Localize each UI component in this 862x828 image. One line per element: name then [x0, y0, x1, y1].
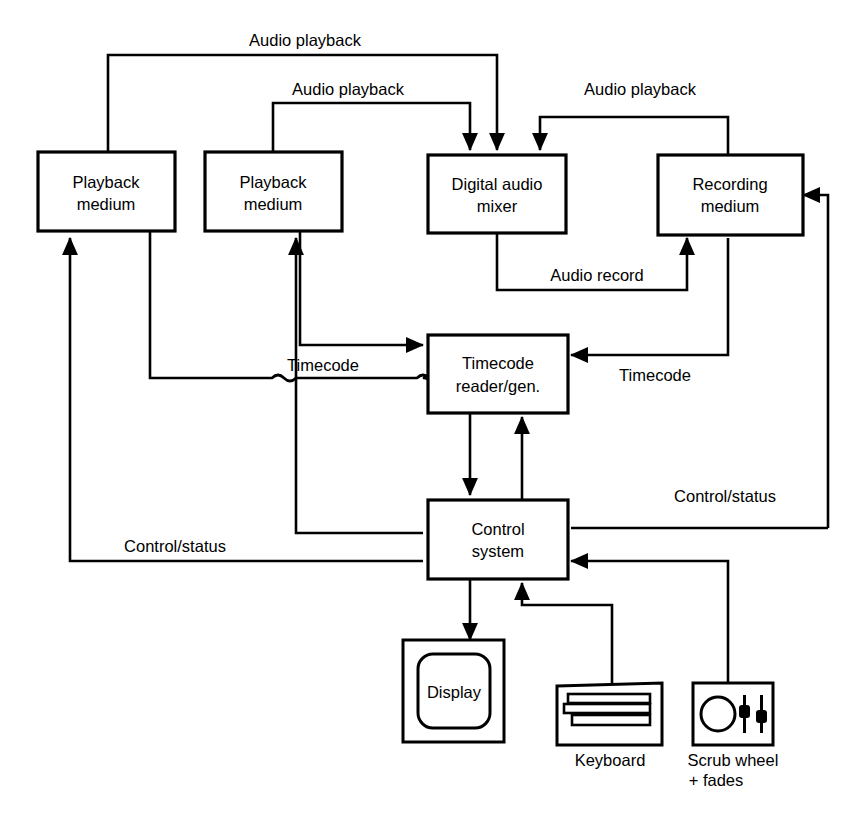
edge-label-audio-playback-2: Audio playback: [292, 80, 405, 98]
wire-timecode-recording: [571, 238, 728, 355]
block-label-line1: Playback: [240, 173, 308, 191]
figure-canvas: Playback medium Playback medium Digital …: [0, 0, 862, 828]
scrub-caption-line2: + fades: [689, 771, 744, 789]
device-display[interactable]: Display: [403, 640, 504, 742]
block-label-line2: medium: [244, 195, 303, 213]
device-scrub-wheel[interactable]: Scrub wheel + fades: [688, 683, 779, 789]
block-timecode-reader-gen[interactable]: Timecode reader/gen.: [428, 335, 568, 413]
block-playback-medium-1[interactable]: Playback medium: [38, 152, 175, 231]
block-label-line1: Recording: [692, 175, 767, 193]
wire-control-playback2: [296, 238, 423, 533]
block-label-line2: medium: [77, 195, 136, 213]
edge-label-audio-playback-1: Audio playback: [249, 31, 362, 49]
edge-label-timecode-right: Timecode: [619, 366, 691, 384]
block-label-line1: Digital audio: [452, 175, 543, 193]
wire-scrub-to-control: [571, 561, 728, 683]
block-control-system[interactable]: Control system: [428, 500, 568, 579]
scrub-caption-line1: Scrub wheel: [688, 751, 779, 769]
wire-audio-playback-3: [540, 117, 728, 155]
block-label-line2: mixer: [477, 197, 518, 215]
block-label-line1: Control: [471, 520, 524, 538]
block-digital-audio-mixer[interactable]: Digital audio mixer: [428, 155, 566, 233]
block-label-line2: medium: [701, 197, 760, 215]
keyboard-caption: Keyboard: [575, 751, 646, 769]
block-label-line1: Timecode: [462, 354, 534, 372]
wire-keyboard-to-control: [522, 583, 612, 683]
display-screen-label: Display: [427, 683, 482, 701]
wire-timecode-playback2: [300, 231, 423, 345]
wire-control-playback1: [70, 238, 423, 561]
edge-label-audio-playback-3: Audio playback: [584, 80, 697, 98]
block-playback-medium-2[interactable]: Playback medium: [205, 152, 342, 231]
block-label-line2: system: [472, 542, 524, 560]
edge-label-audio-record: Audio record: [550, 266, 644, 284]
block-label-line2: reader/gen.: [456, 377, 540, 395]
block-diagram: Playback medium Playback medium Digital …: [0, 0, 862, 828]
block-label-line1: Playback: [73, 173, 141, 191]
edge-label-control-status-right: Control/status: [674, 487, 776, 505]
block-recording-medium[interactable]: Recording medium: [658, 155, 803, 235]
wire-control-recording: [803, 195, 828, 528]
edge-label-control-status-left: Control/status: [124, 537, 226, 555]
edge-label-timecode-left: Timecode: [287, 356, 359, 374]
wire-audio-playback-2: [273, 103, 470, 152]
device-keyboard[interactable]: Keyboard: [557, 683, 662, 769]
